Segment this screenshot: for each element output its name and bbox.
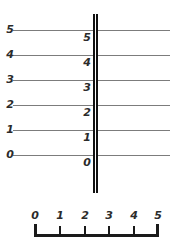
diagram-canvas: 5 4 3 2 1 0 5 4 3 2 1 0 0 1 2 3 4 5	[0, 0, 177, 251]
number-line-label-5: 5	[151, 210, 165, 221]
inner-axis-label-0: 0	[79, 157, 91, 168]
grid-line	[13, 80, 170, 81]
grid-line	[13, 130, 170, 131]
number-line-tick-2	[84, 226, 86, 235]
inner-axis-label-4: 4	[79, 57, 91, 68]
left-axis-label-3: 3	[2, 74, 14, 85]
number-line-tick-1	[59, 226, 61, 235]
number-line-tick-3	[108, 226, 110, 235]
number-line-label-0: 0	[28, 210, 42, 221]
grid-line	[13, 30, 170, 31]
number-line-label-3: 3	[102, 210, 116, 221]
number-line-baseline	[34, 234, 159, 237]
number-line-label-2: 2	[78, 210, 92, 221]
inner-axis-label-5: 5	[79, 32, 91, 43]
number-line-tick-0	[34, 224, 37, 235]
grid-line	[13, 155, 170, 156]
inner-axis-label-2: 2	[79, 107, 91, 118]
left-axis-label-2: 2	[2, 99, 14, 110]
vertical-axis-rule-right	[96, 14, 98, 193]
number-line-tick-5	[156, 224, 159, 235]
inner-axis-label-1: 1	[79, 132, 91, 143]
inner-axis-label-3: 3	[79, 82, 91, 93]
left-axis-label-1: 1	[2, 124, 14, 135]
left-axis-label-5: 5	[2, 24, 14, 35]
left-axis-label-0: 0	[2, 149, 14, 160]
grid-line	[13, 105, 170, 106]
number-line-label-4: 4	[127, 210, 141, 221]
grid-line	[13, 55, 170, 56]
number-line-tick-4	[133, 226, 135, 235]
left-axis-label-4: 4	[2, 49, 14, 60]
number-line-label-1: 1	[53, 210, 67, 221]
